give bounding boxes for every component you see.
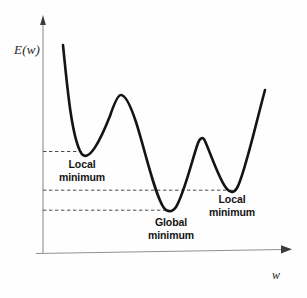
annotation-global-minimum-line1: Global bbox=[138, 216, 204, 229]
annotation-global-minimum-line2: minimum bbox=[138, 229, 204, 242]
annotation-local-minimum-2-line1: Local bbox=[201, 193, 263, 206]
annotation-local-minimum-1-line1: Local bbox=[52, 158, 112, 171]
x-axis-arrowhead bbox=[281, 245, 292, 253]
error-surface-figure: E(w) w Local minimum Global minimum Loca… bbox=[0, 0, 307, 298]
y-axis-label: E(w) bbox=[14, 42, 40, 58]
y-axis-arrowhead bbox=[40, 15, 46, 25]
annotation-local-minimum-1-line2: minimum bbox=[52, 171, 112, 184]
annotation-local-minimum-1: Local minimum bbox=[52, 158, 112, 183]
x-axis-line bbox=[36, 250, 284, 254]
plot-canvas bbox=[0, 0, 307, 298]
annotation-global-minimum: Global minimum bbox=[138, 216, 204, 241]
error-curve-group bbox=[63, 45, 265, 211]
annotation-local-minimum-2-line2: minimum bbox=[201, 206, 263, 219]
error-curve bbox=[63, 45, 265, 211]
annotation-local-minimum-2: Local minimum bbox=[201, 193, 263, 218]
x-axis-label: w bbox=[272, 268, 280, 283]
